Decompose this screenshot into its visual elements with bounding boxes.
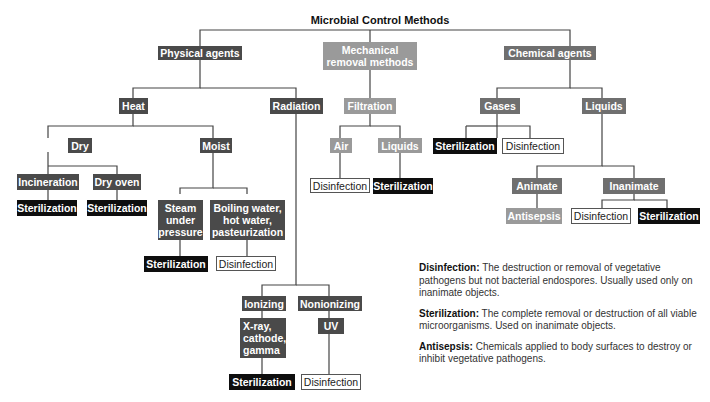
node-air-disinfection: Disinfection — [310, 178, 370, 193]
node-boiling-water: Boiling water, hot water, pasteurization — [210, 200, 285, 240]
node-inanimate-disinfection: Disinfection — [571, 208, 631, 224]
node-chemical-agents: Chemical agents — [504, 46, 596, 60]
node-dry-oven-sterilization: Sterilization — [87, 200, 147, 216]
node-dry: Dry — [68, 138, 92, 153]
legend-sterilization: Sterilization: The complete removal or d… — [419, 308, 709, 333]
node-liquids-chemical: Liquids — [582, 98, 626, 114]
node-liquids-sterilization: Sterilization — [373, 178, 433, 194]
node-boiling-disinfection: Disinfection — [216, 256, 276, 271]
definitions-legend: Disinfection: The destruction or removal… — [419, 262, 709, 374]
node-uv: UV — [318, 318, 344, 334]
node-moist: Moist — [200, 138, 232, 153]
node-inanimate: Inanimate — [603, 178, 665, 194]
node-gases-disinfection: Disinfection — [502, 138, 564, 154]
node-heat: Heat — [119, 98, 148, 114]
node-mechanical-removal: Mechanical removal methods — [323, 42, 417, 70]
node-filtration: Filtration — [344, 98, 396, 114]
node-inanimate-sterilization: Sterilization — [638, 208, 700, 224]
node-physical-agents: Physical agents — [158, 46, 242, 60]
node-dry-oven: Dry oven — [93, 174, 141, 190]
legend-antisepsis: Antisepsis: Chemicals applied to body su… — [419, 341, 709, 366]
node-steam-sterilization: Sterilization — [144, 256, 208, 272]
node-incineration-sterilization: Sterilization — [17, 200, 77, 216]
node-air: Air — [330, 138, 352, 153]
node-liquids-filtration: Liquids — [378, 138, 422, 153]
node-ionizing: Ionizing — [242, 296, 286, 311]
node-incineration: Incineration — [17, 174, 79, 190]
node-uv-disinfection: Disinfection — [301, 374, 361, 390]
legend-disinfection: Disinfection: The destruction or removal… — [419, 262, 709, 300]
node-nonionizing: Nonionizing — [298, 296, 362, 311]
node-xray-cathode-gamma: X-ray, cathode, gamma — [240, 318, 286, 358]
node-gases: Gases — [480, 98, 520, 114]
diagram-title: Microbial Control Methods — [280, 14, 480, 26]
legend-term: Sterilization: — [419, 308, 479, 319]
node-antisepsis: Antisepsis — [506, 208, 562, 224]
legend-term: Disinfection: — [419, 262, 480, 273]
legend-term: Antisepsis: — [419, 341, 473, 352]
node-steam-under-pressure: Steam under pressure — [158, 200, 203, 240]
node-ionizing-sterilization: Sterilization — [229, 374, 295, 390]
node-animate: Animate — [512, 178, 562, 194]
node-radiation: Radiation — [270, 98, 323, 114]
node-gases-sterilization: Sterilization — [433, 138, 497, 154]
